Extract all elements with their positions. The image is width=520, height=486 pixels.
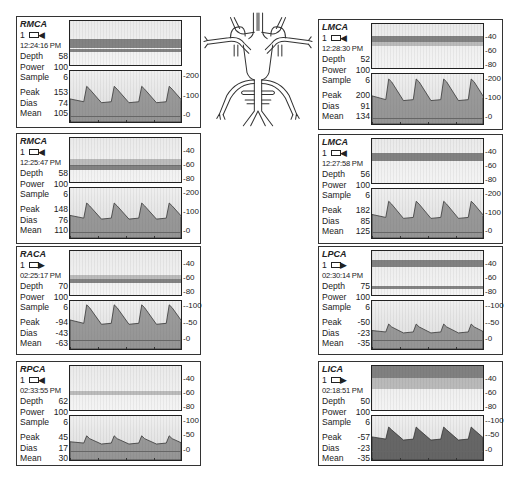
depth-label: Depth bbox=[322, 54, 345, 65]
peak-row: Peak153 bbox=[20, 87, 68, 98]
channel-row: 1◀ bbox=[322, 148, 370, 159]
velocity-tick-label: -50 bbox=[183, 319, 197, 327]
doppler-panel-lpca[interactable]: LPCA1▶02:30:14 PMDepth75Power100Sample6P… bbox=[318, 246, 503, 355]
peak-row: Peak-94 bbox=[20, 317, 68, 328]
power-label: Power bbox=[322, 292, 346, 303]
velocity-tick-label: 0 bbox=[183, 111, 190, 119]
channel-number: 1 bbox=[322, 33, 327, 44]
mean-label: Mean bbox=[20, 338, 42, 349]
mean-row: Mean-63 bbox=[20, 338, 68, 349]
sample-value: 6 bbox=[365, 75, 370, 86]
spectral-waveform bbox=[371, 73, 484, 125]
m-mode-display bbox=[371, 365, 484, 411]
zero-baseline bbox=[372, 451, 483, 452]
dias-value: -23 bbox=[358, 443, 370, 454]
peak-label: Peak bbox=[322, 90, 342, 101]
depth-value: 75 bbox=[360, 281, 370, 292]
velocity-tick-label: -50 bbox=[485, 319, 499, 327]
power-label: Power bbox=[20, 407, 44, 418]
peak-value: 45 bbox=[58, 432, 68, 443]
arrow-icon: ▶ bbox=[340, 261, 347, 269]
velocity-tick-label: 0 bbox=[183, 335, 190, 343]
velocity-tick-label: 100 bbox=[183, 208, 199, 216]
mean-value: 105 bbox=[54, 108, 68, 119]
dias-label: Dias bbox=[322, 328, 339, 339]
peak-row: Peak182 bbox=[322, 205, 370, 216]
sample-label: Sample bbox=[20, 189, 49, 200]
zero-baseline bbox=[372, 118, 483, 119]
signal-band bbox=[372, 286, 483, 289]
dias-row: Dias91 bbox=[322, 101, 370, 112]
peak-value: 153 bbox=[54, 87, 68, 98]
channel-number: 1 bbox=[20, 147, 25, 158]
m-mode-display bbox=[69, 250, 182, 296]
depth-row: Depth75 bbox=[322, 281, 370, 292]
peak-value: -50 bbox=[358, 317, 370, 328]
timestamp: 02:25:17 PM bbox=[20, 271, 68, 282]
doppler-panel-raca[interactable]: RACA1▶02:25:17 PMDepth70Power100Sample6P… bbox=[16, 246, 201, 355]
probe-arrow-away-icon: ▶ bbox=[29, 261, 45, 269]
signal-band bbox=[70, 391, 181, 394]
signal-band bbox=[70, 165, 181, 171]
mean-value: -35 bbox=[358, 338, 370, 349]
velocity-tick-label: 200 bbox=[183, 189, 199, 197]
doppler-panel-rmca-1[interactable]: RMCA1◀12:24:16 PMDepth58Power100Sample6P… bbox=[16, 16, 201, 128]
mean-label: Mean bbox=[20, 108, 42, 119]
arrow-icon: ◀ bbox=[38, 31, 45, 39]
doppler-panel-lmca-2[interactable]: LMCA1◀12:27:58 PMDepth56Power100Sample6P… bbox=[318, 134, 503, 244]
time-axis-ticks bbox=[372, 347, 483, 350]
sample-value: 6 bbox=[63, 417, 68, 428]
channel-number: 1 bbox=[322, 148, 327, 159]
mean-label: Mean bbox=[20, 225, 42, 236]
depth-label: Depth bbox=[20, 396, 43, 407]
velocity-envelope bbox=[70, 416, 181, 460]
sample-row: Sample6 bbox=[322, 302, 370, 313]
signal-band bbox=[372, 36, 483, 43]
power-value: 100 bbox=[54, 62, 68, 73]
dias-value: 76 bbox=[58, 215, 68, 226]
mean-label: Mean bbox=[20, 453, 42, 464]
mean-row: Mean125 bbox=[322, 226, 370, 237]
spectral-waveform bbox=[69, 187, 182, 239]
measurement-info: RACA1▶02:25:17 PMDepth70Power100Sample6P… bbox=[20, 249, 68, 349]
arrow-icon: ◀ bbox=[38, 148, 45, 156]
timestamp: 02:33:55 PM bbox=[20, 386, 68, 397]
channel-row: 1▶ bbox=[322, 375, 370, 386]
m-mode-display bbox=[69, 20, 182, 66]
peak-label: Peak bbox=[20, 317, 40, 328]
velocity-tick-label: 50 bbox=[183, 431, 195, 439]
velocity-tick-label: 200 bbox=[183, 72, 199, 80]
spectral-waveform bbox=[371, 415, 484, 461]
vessel-label: RACA bbox=[20, 249, 68, 260]
channel-row: 1◀ bbox=[20, 30, 68, 41]
peak-label: Peak bbox=[20, 87, 40, 98]
channel-number: 1 bbox=[322, 375, 327, 386]
sample-value: 6 bbox=[63, 189, 68, 200]
zero-baseline bbox=[70, 116, 181, 117]
depth-tick-label: 80 bbox=[485, 61, 497, 69]
doppler-panel-lmca-1[interactable]: LMCA1◀12:28:30 PMDepth52Power100Sample6P… bbox=[318, 19, 503, 130]
doppler-panel-rmca-2[interactable]: RMCA1◀12:25:47 PMDepth58Power100Sample6P… bbox=[16, 133, 201, 244]
probe-arrow-toward-icon: ◀ bbox=[29, 148, 45, 156]
power-value: 100 bbox=[356, 65, 370, 76]
sample-label: Sample bbox=[20, 302, 49, 313]
sample-label: Sample bbox=[322, 190, 351, 201]
peak-value: -57 bbox=[358, 432, 370, 443]
sample-value: 6 bbox=[63, 302, 68, 313]
doppler-panel-lica[interactable]: LICA1▶02:18:51 PMDepth50Power100Sample6P… bbox=[318, 361, 503, 466]
spectral-waveform bbox=[69, 70, 182, 123]
peak-label: Peak bbox=[322, 317, 342, 328]
doppler-panel-rpca[interactable]: RPCA1◀02:33:55 PMDepth62Power100Sample6P… bbox=[16, 361, 201, 466]
peak-label: Peak bbox=[322, 205, 342, 216]
depth-row: Depth50 bbox=[322, 396, 370, 407]
channel-number: 1 bbox=[20, 375, 25, 386]
vessel-label: LMCA bbox=[322, 137, 370, 148]
dias-label: Dias bbox=[20, 98, 37, 109]
depth-tick-label: 80 bbox=[485, 288, 497, 296]
power-label: Power bbox=[20, 292, 44, 303]
depth-label: Depth bbox=[20, 51, 43, 62]
probe-arrow-toward-icon: ◀ bbox=[29, 376, 45, 384]
signal-band bbox=[70, 279, 181, 284]
sample-label: Sample bbox=[20, 417, 49, 428]
signal-band bbox=[372, 378, 483, 390]
